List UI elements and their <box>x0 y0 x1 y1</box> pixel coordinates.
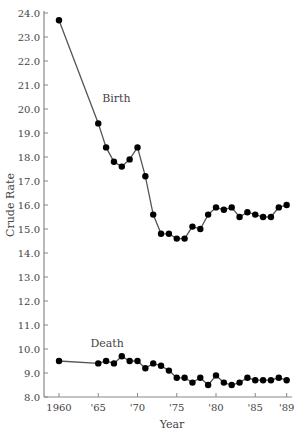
x-tick-label: '65 <box>91 402 106 413</box>
data-point <box>142 173 148 179</box>
data-point <box>276 375 282 381</box>
data-point <box>260 377 266 383</box>
data-point <box>174 235 180 241</box>
y-tick-label: 19.0 <box>18 128 40 139</box>
data-point <box>166 231 172 237</box>
data-point <box>134 358 140 364</box>
data-point <box>221 379 227 385</box>
data-point <box>213 204 219 210</box>
data-point <box>174 375 180 381</box>
y-tick-label: 23.0 <box>18 32 40 43</box>
data-point <box>158 231 164 237</box>
data-point <box>197 226 203 232</box>
x-tick-label: '89 <box>279 402 294 413</box>
x-axis: 1960'65'70'75'80'85'89 <box>44 393 294 413</box>
data-point <box>197 375 203 381</box>
y-tick-label: 24.0 <box>18 8 40 19</box>
x-tick-label: '70 <box>130 402 145 413</box>
data-point <box>126 156 132 162</box>
data-point <box>111 159 117 165</box>
data-point <box>283 377 289 383</box>
y-tick-label: 11.0 <box>18 320 40 331</box>
data-point <box>260 214 266 220</box>
data-point <box>283 202 289 208</box>
data-point <box>213 372 219 378</box>
series-birth: Birth <box>56 17 290 242</box>
y-tick-label: 16.0 <box>18 200 40 211</box>
data-point <box>221 207 227 213</box>
data-point <box>252 211 258 217</box>
y-axis: 8.09.010.011.012.013.014.015.016.017.018… <box>18 8 48 403</box>
series-line <box>59 20 287 238</box>
data-point <box>56 17 62 23</box>
data-point <box>205 211 211 217</box>
crude-rate-chart: 8.09.010.011.012.013.014.015.016.017.018… <box>0 0 298 437</box>
data-point <box>268 377 274 383</box>
data-point <box>158 363 164 369</box>
y-tick-label: 12.0 <box>18 296 40 307</box>
y-tick-label: 18.0 <box>18 152 40 163</box>
data-point <box>95 120 101 126</box>
y-tick-label: 10.0 <box>18 344 40 355</box>
y-axis-title: Crude Rate <box>4 173 17 237</box>
y-tick-label: 17.0 <box>18 176 40 187</box>
series-death: Death <box>56 337 290 389</box>
series-label: Birth <box>102 92 130 105</box>
y-tick-label: 9.0 <box>24 368 40 379</box>
data-point <box>181 375 187 381</box>
data-point <box>229 204 235 210</box>
x-tick-label: '75 <box>169 402 184 413</box>
data-point <box>150 211 156 217</box>
series-layer: BirthDeath <box>56 17 290 388</box>
data-point <box>252 377 258 383</box>
data-point <box>119 163 125 169</box>
data-point <box>244 209 250 215</box>
data-point <box>111 360 117 366</box>
data-point <box>189 223 195 229</box>
data-point <box>134 144 140 150</box>
x-axis-title: Year <box>159 418 185 431</box>
data-point <box>181 235 187 241</box>
data-point <box>142 365 148 371</box>
y-tick-label: 21.0 <box>18 80 40 91</box>
data-point <box>276 204 282 210</box>
data-point <box>126 358 132 364</box>
x-tick-label: '80 <box>208 402 223 413</box>
y-tick-label: 13.0 <box>18 272 40 283</box>
y-tick-label: 15.0 <box>18 224 40 235</box>
data-point <box>205 382 211 388</box>
data-point <box>236 214 242 220</box>
data-point <box>244 375 250 381</box>
data-point <box>268 214 274 220</box>
data-point <box>150 360 156 366</box>
y-tick-label: 8.0 <box>24 392 40 403</box>
data-point <box>103 358 109 364</box>
data-point <box>236 379 242 385</box>
data-point <box>229 382 235 388</box>
y-tick-label: 22.0 <box>18 56 40 67</box>
data-point <box>189 379 195 385</box>
x-tick-label: 1960 <box>46 402 71 413</box>
x-tick-label: '85 <box>248 402 263 413</box>
series-label: Death <box>90 337 123 350</box>
data-point <box>95 360 101 366</box>
data-point <box>119 353 125 359</box>
y-tick-label: 14.0 <box>18 248 40 259</box>
data-point <box>166 367 172 373</box>
y-tick-label: 20.0 <box>18 104 40 115</box>
data-point <box>56 358 62 364</box>
data-point <box>103 144 109 150</box>
